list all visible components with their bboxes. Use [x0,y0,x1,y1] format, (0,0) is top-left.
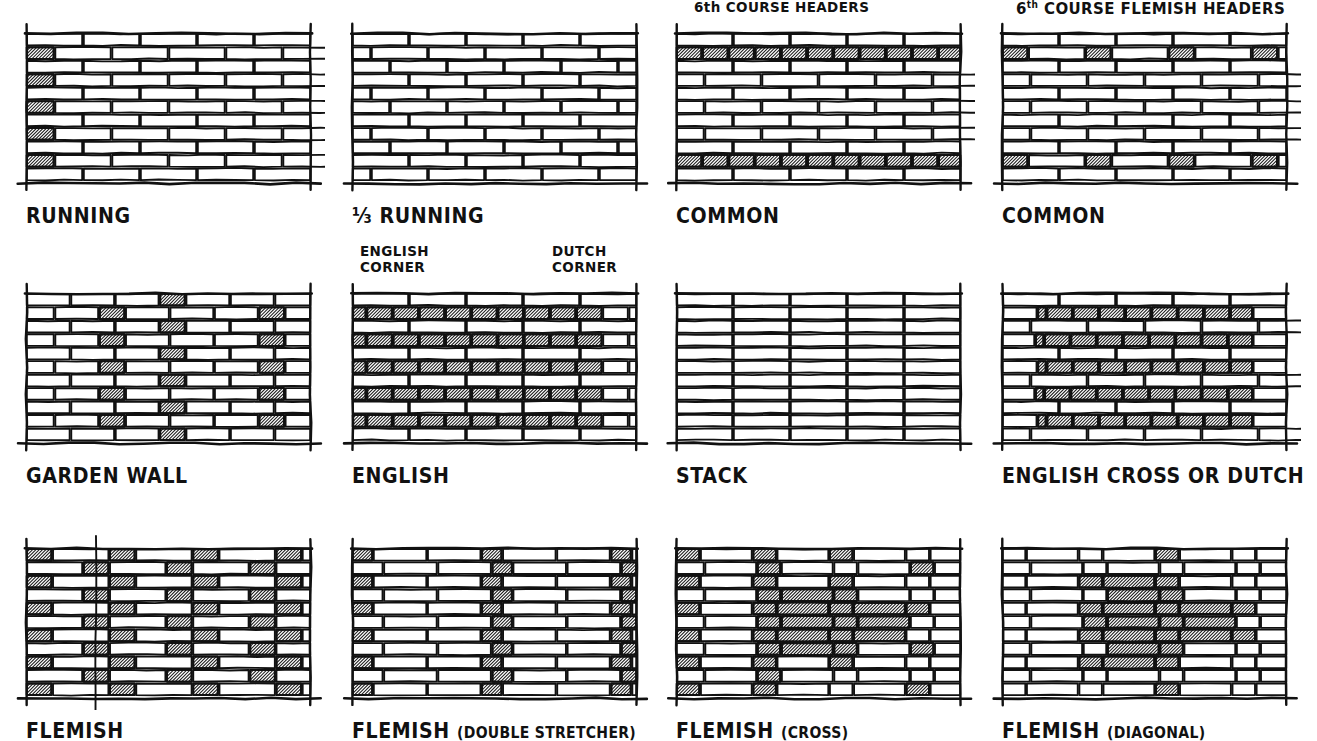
annotation-english-1: CORNER [360,259,425,276]
panel-caption-stack: STACK [676,463,748,488]
wall-third-running [352,33,637,181]
wall-stack [676,293,961,441]
caption-main-common-headers: COMMON [676,203,780,228]
caption-main-garden-wall: GARDEN WALL [26,463,188,488]
caption-main-english-cross: ENGLISH CROSS OR DUTCH [1002,463,1304,488]
panel-caption-running: RUNNING [26,203,131,228]
wall-garden-wall [26,293,311,441]
panel-caption-common-headers: COMMON [676,203,780,228]
wall-drawing-english [338,279,651,455]
annotation-english-3: CORNER [552,259,617,276]
wall-flemish [26,548,311,696]
panel-caption-flemish-diagonal: FLEMISH (DIAGONAL) [1002,718,1205,741]
caption-main-third-running: ⅓ RUNNING [352,203,484,228]
wall-drawing-garden-wall [12,279,325,455]
wall-drawing-english-cross [988,279,1301,455]
wall-flemish-double-stretcher [352,548,637,696]
annotation-common-flemish-headers-0: 6th COURSE FLEMISH HEADERS [1016,0,1285,19]
wall-drawing-running [12,19,325,195]
panel-caption-english: ENGLISH [352,463,449,488]
caption-sub-flemish-double-stretcher: (DOUBLE STRETCHER) [457,724,636,741]
wall-flemish-cross [676,548,961,696]
panel-caption-garden-wall: GARDEN WALL [26,463,188,488]
wall-common-flemish-headers [1002,33,1287,181]
caption-main-stack: STACK [676,463,748,488]
caption-main-flemish-double-stretcher: FLEMISH [352,718,450,741]
wall-drawing-flemish-double-stretcher [338,534,651,710]
caption-main-running: RUNNING [26,203,131,228]
wall-drawing-common-flemish-headers [988,19,1301,195]
caption-main-flemish: FLEMISH [26,718,124,741]
wall-drawing-third-running [338,19,651,195]
brick-bond-sheet: RUNNING⅓ RUNNING6th COURSE HEADERSCOMMON… [0,0,1317,741]
panel-caption-third-running: ⅓ RUNNING [352,203,484,228]
wall-drawing-stack [662,279,975,455]
wall-running [26,33,311,181]
wall-common-headers [676,33,961,181]
wall-flemish-diagonal [1002,548,1287,696]
caption-main-flemish-diagonal: FLEMISH [1002,718,1100,741]
panel-caption-common-flemish-headers: COMMON [1002,203,1106,228]
panel-caption-flemish: FLEMISH [26,718,124,741]
wall-english-cross [1002,293,1287,441]
caption-sub-flemish-cross: (CROSS) [781,724,848,741]
caption-main-flemish-cross: FLEMISH [676,718,774,741]
wall-english [352,293,637,441]
caption-main-common-flemish-headers: COMMON [1002,203,1106,228]
wall-drawing-flemish-cross [662,534,975,710]
caption-sub-flemish-diagonal: (DIAGONAL) [1107,724,1205,741]
wall-drawing-common-headers [662,19,975,195]
panel-caption-flemish-double-stretcher: FLEMISH (DOUBLE STRETCHER) [352,718,636,741]
wall-drawing-flemish [12,534,325,710]
wall-drawing-flemish-diagonal [988,534,1301,710]
panel-caption-flemish-cross: FLEMISH (CROSS) [676,718,848,741]
caption-main-english: ENGLISH [352,463,449,488]
panel-caption-english-cross: ENGLISH CROSS OR DUTCH [1002,463,1304,488]
annotation-common-headers-0: 6th COURSE HEADERS [694,0,869,16]
